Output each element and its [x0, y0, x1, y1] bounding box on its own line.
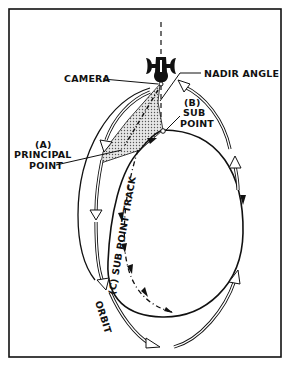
orbit-diagram: CAMERA NADIR ANGLE (B) SUB POINT (A) PRI…	[0, 0, 289, 370]
sub-point-label-3: POINT	[180, 118, 214, 129]
camera-leader	[103, 79, 158, 84]
principal-point-label-2: PRINCIPAL	[14, 149, 72, 160]
orbit-arrow-bottom	[110, 292, 150, 344]
sub-point-track-label: (C) SUB POINT TRACK	[106, 175, 138, 295]
sub-point-label-2: SUB	[183, 107, 205, 118]
camera-label: CAMERA	[64, 73, 111, 84]
frame-border	[9, 9, 281, 357]
track-arrow-4	[141, 287, 148, 297]
principal-point-label-3: POINT	[29, 160, 63, 171]
track-arrow-5	[164, 307, 173, 313]
orbit-arrowhead-mid-left	[90, 210, 102, 220]
orbit-arrowhead-mid-right	[229, 156, 241, 168]
nadir-angle-label: NADIR ANGLE	[204, 68, 279, 79]
orbit-label: ORBIT	[93, 299, 114, 335]
orbit-arrowhead-bottom	[146, 338, 160, 348]
sub-point-marker	[161, 129, 166, 134]
sub-point-leader	[166, 116, 180, 130]
orbit-arrow-lower-right	[174, 280, 235, 347]
sub-point-track	[124, 150, 172, 312]
satellite-icon	[146, 57, 176, 86]
